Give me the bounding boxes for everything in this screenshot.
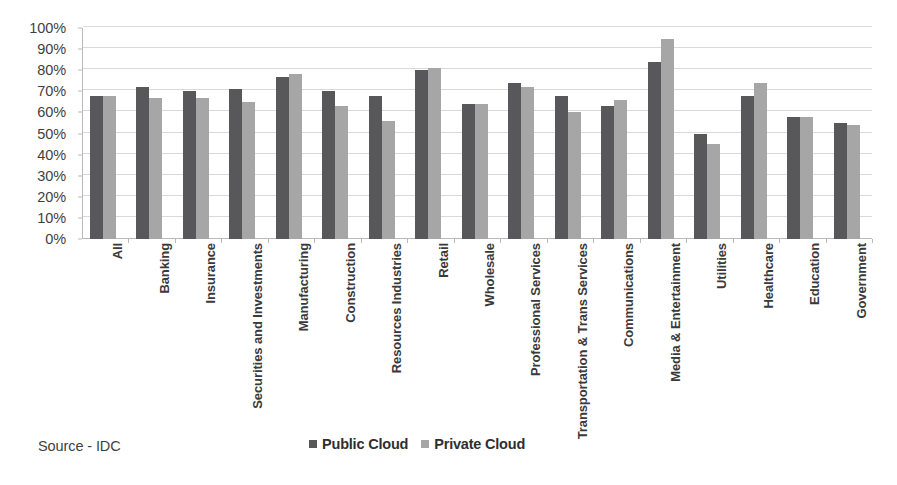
bar (787, 117, 800, 239)
y-tick-label-80%: 80% (37, 62, 66, 78)
chart-page: 0%10%20%30%40%50%60%70%80%90%100% AllBan… (0, 0, 897, 485)
bar-group (314, 28, 360, 239)
bar (508, 83, 521, 239)
bar (90, 96, 103, 239)
x-tick-mark (547, 239, 548, 243)
legend-label: Public Cloud (322, 436, 408, 452)
square-swatch-icon (309, 440, 317, 448)
bar-group (82, 28, 128, 239)
bar (648, 62, 661, 239)
bar (741, 96, 754, 239)
square-swatch-icon (421, 440, 429, 448)
bar (415, 70, 428, 239)
bar (707, 144, 720, 239)
x-tick-mark (500, 239, 501, 243)
y-tick-label-50%: 50% (37, 126, 66, 142)
x-axis-label: Securities and Investments (250, 243, 265, 409)
x-axis-label: Government (854, 243, 869, 319)
x-tick-mark (686, 239, 687, 243)
y-tick-label-30%: 30% (37, 168, 66, 184)
x-axis-label: Education (807, 243, 822, 305)
x-tick-mark (175, 239, 176, 243)
chart-legend: Public CloudPrivate Cloud (309, 436, 525, 452)
y-tick-label-0%: 0% (45, 231, 66, 247)
bar (242, 102, 255, 239)
bar-group (779, 28, 825, 239)
bar-group (826, 28, 872, 239)
x-tick-mark (640, 239, 641, 243)
x-tick-mark (361, 239, 362, 243)
x-tick-mark (407, 239, 408, 243)
x-axis-label: Professional Services (528, 243, 543, 376)
bar (428, 68, 441, 239)
bar-group (407, 28, 453, 239)
x-axis-label: Resources Industries (389, 243, 404, 373)
x-axis: AllBankingInsuranceSecurities and Invest… (82, 243, 872, 413)
bar (103, 96, 116, 239)
legend-item: Public Cloud (309, 436, 408, 452)
y-tick-label-20%: 20% (37, 189, 66, 205)
x-axis-label: Manufacturing (296, 243, 311, 331)
x-axis-label: Healthcare (761, 243, 776, 308)
bar (834, 123, 847, 239)
bar (555, 96, 568, 239)
legend-label: Private Cloud (434, 436, 525, 452)
bar (661, 39, 674, 239)
bar-group (128, 28, 174, 239)
bar (149, 98, 162, 239)
source-note: Source - IDC (38, 438, 121, 454)
bar-group (686, 28, 732, 239)
bar (229, 89, 242, 239)
y-tick-label-10%: 10% (37, 210, 66, 226)
x-axis-label: Wholesale (482, 243, 497, 306)
x-axis-label: Retail (436, 243, 451, 278)
bar-group (640, 28, 686, 239)
bar-group (547, 28, 593, 239)
x-axis-label: Construction (343, 243, 358, 323)
bars-layer (82, 28, 872, 239)
bar-group (175, 28, 221, 239)
bar-group (500, 28, 546, 239)
bar-group (733, 28, 779, 239)
x-tick-mark (593, 239, 594, 243)
bar (800, 117, 813, 239)
gridline-100% (83, 26, 872, 27)
x-tick-mark (872, 239, 873, 243)
y-tick-label-60%: 60% (37, 104, 66, 120)
x-axis-label: Transportation & Trans Services (575, 243, 590, 439)
bar (521, 87, 534, 239)
x-axis-label: Insurance (203, 243, 218, 304)
x-axis-label: Communications (621, 243, 636, 347)
bar-group (454, 28, 500, 239)
y-tick-label-100%: 100% (29, 20, 66, 36)
bar-group (593, 28, 639, 239)
bar (568, 112, 581, 239)
x-axis-label: Utilities (714, 243, 729, 289)
x-tick-mark (454, 239, 455, 243)
bar-group (268, 28, 314, 239)
bar (183, 91, 196, 239)
legend-item: Private Cloud (421, 436, 525, 452)
x-axis-label: All (110, 243, 125, 259)
bar (614, 100, 627, 239)
x-axis-label: Media & Entertainment (668, 243, 683, 382)
x-tick-mark (733, 239, 734, 243)
x-tick-mark (314, 239, 315, 243)
bar (322, 91, 335, 239)
bar (382, 121, 395, 239)
y-tick-label-70%: 70% (37, 83, 66, 99)
x-tick-mark (826, 239, 827, 243)
x-tick-mark (268, 239, 269, 243)
bar (601, 106, 614, 239)
x-tick-mark (221, 239, 222, 243)
y-tick-label-90%: 90% (37, 41, 66, 57)
bar (847, 125, 860, 239)
bar (196, 98, 209, 239)
x-tick-mark (779, 239, 780, 243)
bar (289, 74, 302, 239)
y-tick-label-40%: 40% (37, 147, 66, 163)
bar (335, 106, 348, 239)
bar (475, 104, 488, 239)
bar (462, 104, 475, 239)
bar (136, 87, 149, 239)
